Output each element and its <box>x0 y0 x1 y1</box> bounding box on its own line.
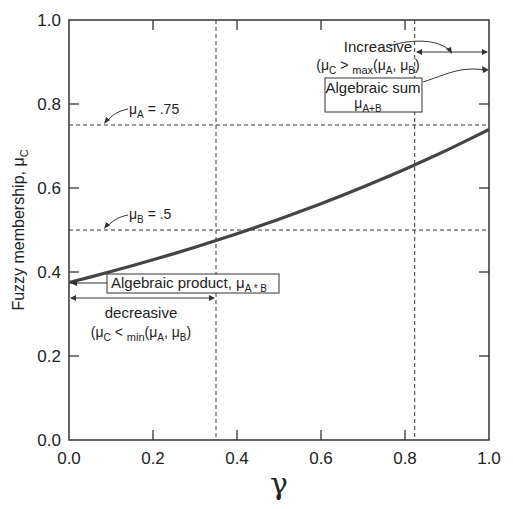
mu-symbol: μ <box>129 206 137 222</box>
sub-c: C <box>329 65 336 76</box>
min: min <box>127 331 145 343</box>
svg-text:μB = .5: μB = .5 <box>129 206 172 225</box>
y-axis-label: Fuzzy membership, μC <box>10 149 30 310</box>
decreasive-label: decreasive <box>105 304 178 321</box>
y-tick-1: 0.2 <box>37 347 61 366</box>
mu-a-value: = .75 <box>144 101 180 117</box>
svg-text:μA = .75: μA = .75 <box>129 101 179 120</box>
gamma-operator-chart: 0.0 0.2 0.4 0.6 0.8 1.0 0.0 0.2 0.4 0.6 … <box>0 0 513 509</box>
product-sub: A * B <box>245 283 268 294</box>
paren: ) <box>415 57 420 73</box>
x-axis-label: γ <box>270 466 288 501</box>
increasive-condition: (μC > max(μA, μB) <box>316 57 419 76</box>
product-title: Algebraic product, <box>111 274 236 291</box>
algebraic-sum-annotation: Algebraic sum μA+B <box>325 66 489 114</box>
decreasive-condition: (μC < min(μA, μB) <box>91 324 191 343</box>
decreasive-annotation: decreasive (μC < min(μA, μB) <box>70 295 215 343</box>
mu-symbol: μ <box>129 101 137 117</box>
y-tick-3: 0.6 <box>37 179 61 198</box>
mu-symbol: μ <box>354 95 362 111</box>
paren: ) <box>186 324 191 340</box>
mu-symbol: μ <box>149 324 157 340</box>
max: max <box>352 64 373 76</box>
y-axis-label-sub: C <box>18 149 30 157</box>
mu-b-annotation: μB = .5 <box>104 206 172 229</box>
mu-symbol: μ <box>96 324 104 340</box>
x-tick-4: 0.8 <box>393 449 417 468</box>
algebraic-sum-pointer <box>423 69 485 82</box>
x-tick-1: 0.2 <box>141 449 165 468</box>
x-tick-0: 0.0 <box>57 449 81 468</box>
comma: , <box>392 57 400 73</box>
y-tick-2: 0.4 <box>37 263 61 282</box>
algebraic-product-annotation: Algebraic product, μA * B <box>70 274 279 294</box>
gt: > <box>336 57 352 73</box>
x-tick-2: 0.4 <box>225 449 249 468</box>
mu-symbol: μ <box>236 274 245 291</box>
svg-text:Fuzzy membership, μC: Fuzzy membership, μC <box>10 149 30 310</box>
x-tick-5: 1.0 <box>477 449 501 468</box>
mu-a-annotation: μA = .75 <box>104 101 179 124</box>
y-tick-5: 1.0 <box>37 11 61 30</box>
mu-symbol: μ <box>321 57 329 73</box>
sum-sub: A+B <box>362 103 382 114</box>
mu-symbol: μ <box>378 57 386 73</box>
mu-b-value: = .5 <box>144 206 172 222</box>
mu-symbol: μ <box>400 57 408 73</box>
sub-c: C <box>104 332 111 343</box>
y-axis-label-main: Fuzzy membership, <box>10 167 27 311</box>
reference-lines <box>69 20 489 440</box>
algebraic-sum-title: Algebraic sum <box>325 79 420 96</box>
lt: < <box>111 324 127 340</box>
y-axis-label-mu: μ <box>10 157 27 166</box>
mu-symbol: μ <box>172 324 180 340</box>
y-tick-4: 0.8 <box>37 95 61 114</box>
increasive-label: Increasive <box>344 38 412 55</box>
x-tick-3: 0.6 <box>309 449 333 468</box>
y-tick-0: 0.0 <box>37 431 61 450</box>
y-tick-labels: 0.0 0.2 0.4 0.6 0.8 1.0 <box>37 11 61 450</box>
comma: , <box>164 324 172 340</box>
